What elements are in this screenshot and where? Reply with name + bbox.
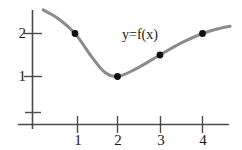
function-equation-label: y=f(x) xyxy=(122,28,158,42)
data-point-3-1.5 xyxy=(157,52,164,59)
data-point-1-2 xyxy=(72,30,79,37)
y-axis-tick-label-2: 2 xyxy=(6,26,26,41)
x-axis-tick-label-4: 4 xyxy=(193,133,213,148)
function-curve xyxy=(43,10,230,77)
data-point-2-1 xyxy=(114,73,121,80)
y-axis-tick-label-1: 1 xyxy=(6,69,26,84)
plot-canvas xyxy=(0,0,242,150)
x-axis-tick-label-2: 2 xyxy=(108,133,128,148)
data-point-4-2 xyxy=(199,30,206,37)
x-axis-tick-label-1: 1 xyxy=(68,133,88,148)
x-axis-tick-label-3: 3 xyxy=(151,133,171,148)
function-graph-figure: 2 1 1 2 3 4 y=f(x) xyxy=(0,0,242,150)
